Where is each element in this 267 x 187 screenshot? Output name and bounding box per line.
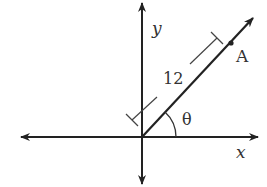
angle-arc bbox=[165, 112, 176, 137]
coordinate-diagram: y x A 12 θ bbox=[0, 0, 267, 187]
angle-label: θ bbox=[182, 110, 192, 129]
point-a-label: A bbox=[235, 46, 249, 66]
length-label: 12 bbox=[163, 69, 183, 88]
point-a bbox=[228, 40, 233, 45]
y-axis-label: y bbox=[151, 18, 162, 38]
x-axis-label: x bbox=[236, 142, 246, 162]
